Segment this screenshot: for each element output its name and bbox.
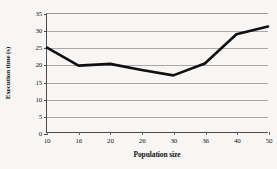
y-axis-title-text: Execution time (s) — [4, 47, 12, 99]
x-tick-mark — [79, 132, 80, 135]
x-axis-title: Population size — [46, 150, 268, 159]
x-tick-mark — [174, 132, 175, 135]
y-axis-title: Execution time (s) — [2, 13, 14, 133]
series-line-execution-time — [47, 14, 268, 132]
x-tick-label: 40 — [234, 137, 241, 145]
y-tick-label: 35 — [35, 10, 42, 18]
plot-area: 05101520253035 1016202630364050 — [46, 13, 268, 133]
x-tick-mark — [47, 132, 48, 135]
x-tick-label: 16 — [75, 137, 82, 145]
x-tick-label: 26 — [139, 137, 146, 145]
y-tick-label: 20 — [35, 61, 42, 69]
y-tick-label: 30 — [35, 27, 42, 35]
x-tick-mark — [269, 132, 270, 135]
chart-figure: Execution time (s) 05101520253035 101620… — [0, 0, 277, 169]
x-tick-label: 30 — [171, 137, 178, 145]
series-polyline — [47, 26, 268, 75]
x-tick-mark — [237, 132, 238, 135]
x-tick-label: 10 — [44, 137, 51, 145]
x-tick-label: 20 — [107, 137, 114, 145]
x-tick-label: 50 — [266, 137, 273, 145]
y-tick-label: 5 — [39, 113, 42, 121]
x-tick-mark — [110, 132, 111, 135]
y-tick-label: 0 — [39, 130, 42, 138]
y-tick-label: 15 — [35, 79, 42, 87]
x-tick-mark — [142, 132, 143, 135]
y-tick-label: 25 — [35, 44, 42, 52]
y-tick-label: 10 — [35, 96, 42, 104]
x-tick-label: 36 — [202, 137, 209, 145]
x-tick-mark — [206, 132, 207, 135]
